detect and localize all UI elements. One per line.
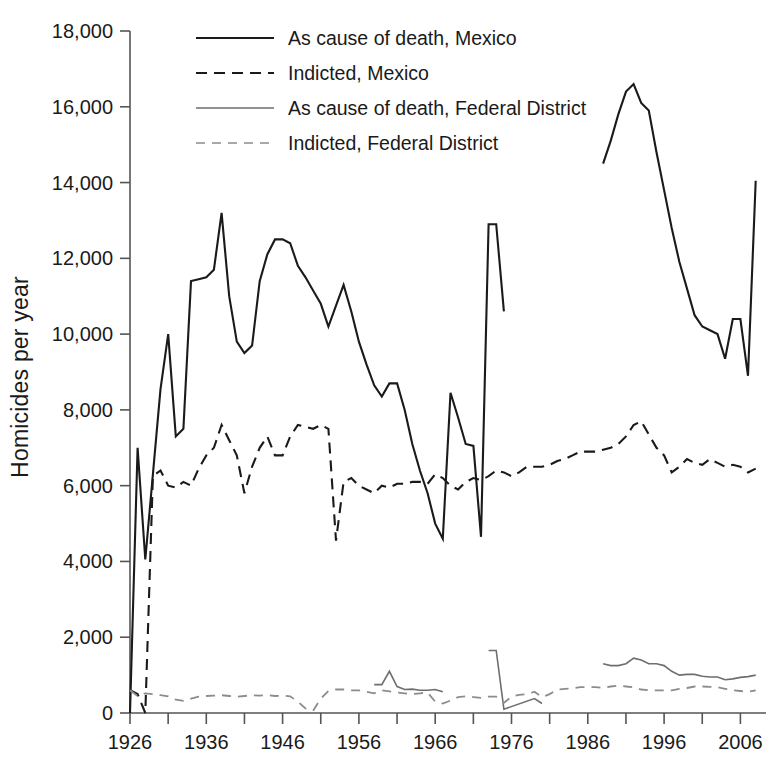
homicide-chart-figure: Homicides per year 02,0004,0006,0008,000…: [0, 0, 773, 764]
y-tick-label: 12,000: [52, 247, 113, 269]
series-line-0: [603, 84, 756, 376]
x-tick-label: 1956: [337, 731, 382, 753]
legend-label-3: Indicted, Federal District: [288, 132, 499, 154]
y-tick-label: 0: [102, 702, 113, 724]
x-axis-ticks: 192619361946195619661976198619962006: [108, 713, 763, 753]
y-tick-label: 2,000: [63, 626, 113, 648]
chart-canvas: 02,0004,0006,0008,00010,00012,00014,0001…: [0, 0, 773, 764]
series-line-0: [130, 213, 504, 713]
series-line-2: [374, 671, 443, 692]
y-tick-label: 6,000: [63, 475, 113, 497]
y-tick-label: 8,000: [63, 399, 113, 421]
y-tick-label: 14,000: [52, 172, 113, 194]
x-tick-label: 1986: [566, 731, 611, 753]
y-tick-label: 10,000: [52, 323, 113, 345]
series-line-1: [130, 421, 756, 713]
y-tick-label: 4,000: [63, 550, 113, 572]
series-line-2: [603, 658, 756, 680]
y-tick-label: 18,000: [52, 20, 113, 42]
chart-legend: As cause of death, MexicoIndicted, Mexic…: [196, 27, 587, 154]
data-series: [130, 84, 756, 713]
series-line-3: [130, 686, 756, 711]
x-tick-label: 1936: [184, 731, 229, 753]
x-tick-label: 2006: [718, 731, 763, 753]
x-tick-label: 1926: [108, 731, 153, 753]
legend-label-2: As cause of death, Federal District: [288, 97, 587, 119]
x-tick-label: 1946: [260, 731, 305, 753]
y-tick-label: 16,000: [52, 96, 113, 118]
legend-label-0: As cause of death, Mexico: [288, 27, 517, 49]
series-line-2: [489, 651, 542, 710]
x-tick-label: 1996: [642, 731, 687, 753]
x-tick-label: 1966: [413, 731, 458, 753]
x-tick-label: 1976: [489, 731, 534, 753]
legend-label-1: Indicted, Mexico: [288, 62, 429, 84]
y-axis-ticks: 02,0004,0006,0008,00010,00012,00014,0001…: [52, 20, 130, 724]
